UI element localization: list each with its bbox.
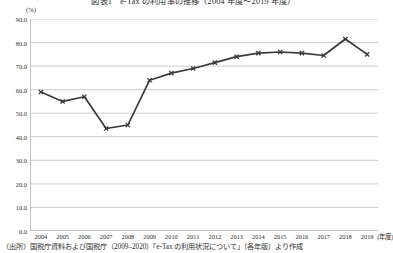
x-tick-label: 2006 [78, 233, 91, 241]
chart-title: 図表1 e-Tax の利用率の推移（2004 年度〜2019 年度） [0, 0, 387, 5]
x-tick-label: 2005 [56, 233, 69, 241]
y-tick-label: 70.0 [16, 63, 27, 70]
chart-plot-svg [30, 19, 378, 231]
x-tick-label: 2013 [230, 233, 243, 241]
series-line-0 [41, 39, 367, 129]
x-tick-label: 2018 [339, 233, 352, 241]
x-tick-label: 2016 [295, 233, 308, 241]
x-tick-label: 2019 [361, 233, 374, 241]
y-tick-label: 20.0 [16, 180, 27, 187]
y-tick-label: 0.0 [19, 228, 27, 235]
y-tick-label: 60.0 [16, 86, 27, 93]
x-axis-unit-label: (年度) [377, 233, 393, 241]
plot-area [30, 19, 378, 231]
y-tick-label: 90.0 [16, 16, 27, 23]
x-tick-label: 2017 [317, 233, 330, 241]
y-tick-label: 30.0 [16, 157, 27, 164]
y-tick-label: 80.0 [16, 39, 27, 46]
x-tick-label: 2011 [187, 233, 200, 241]
y-tick-label: 40.0 [16, 133, 27, 140]
x-tick-label: 2012 [208, 233, 221, 241]
y-tick-label: 50.0 [16, 110, 27, 117]
x-tick-label: 2007 [100, 233, 113, 241]
x-tick-label: 2009 [143, 233, 156, 241]
x-tick-label: 2014 [252, 233, 265, 241]
y-tick-label: 10.0 [16, 204, 27, 211]
x-tick-label: 2010 [165, 233, 178, 241]
x-tick-label: 2015 [274, 233, 287, 241]
x-tick-label: 2004 [34, 233, 47, 241]
x-tick-label: 2008 [121, 233, 134, 241]
source-note: （出所）国税庁資料および国税庁（2009–2020）「e-Tax の利用状況につ… [2, 243, 387, 252]
y-axis-unit-label: (%) [26, 6, 36, 14]
